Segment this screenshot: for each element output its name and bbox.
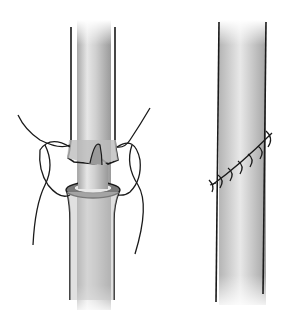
suture-right-loop (117, 143, 140, 195)
anastomosis-illustration (0, 0, 291, 329)
right-tube-body (219, 20, 266, 305)
suture-right-tail (130, 145, 144, 254)
right-figure-sutured-vessel (209, 20, 272, 310)
left-figure-vessel-repair (18, 20, 150, 315)
suture-left-tail (33, 145, 50, 245)
right-tube-left-edge (216, 22, 219, 302)
suture-left-upper (18, 115, 70, 147)
suture-right-upper (117, 108, 150, 147)
